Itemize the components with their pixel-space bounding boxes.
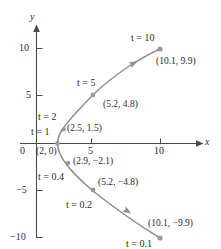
parametric-curve-figure xyxy=(0,0,221,249)
y-tick-label-neg10: −10 xyxy=(10,232,26,242)
data-point-t5 xyxy=(91,93,96,98)
t-label-t10: t = 10 xyxy=(131,33,154,43)
t-label-t01: t = 0.1 xyxy=(126,239,152,249)
data-point-t04 xyxy=(66,161,70,165)
y-tick-label-5: 5 xyxy=(26,90,31,100)
x-axis-arrowhead xyxy=(196,140,204,147)
coord-label-t5: (5.2, 4.8) xyxy=(103,100,138,110)
y-axis-arrowhead xyxy=(33,25,40,33)
data-point-t02 xyxy=(91,188,96,193)
t-label-t2: t = 2 xyxy=(38,112,56,122)
data-point-t2 xyxy=(61,127,65,131)
coord-label-t01: (10.1, −9.9) xyxy=(148,219,193,229)
coord-label-t2: (2.5, 1.5) xyxy=(67,124,102,134)
t-label-t04: t = 0.4 xyxy=(38,172,64,182)
t-label-t1: t = 1 xyxy=(31,127,49,137)
coord-label-t1: (2, 0) xyxy=(36,147,57,157)
x-tick-label-5: 5 xyxy=(88,146,93,156)
coord-label-t10: (10.1, 9.9) xyxy=(156,57,196,67)
y-axis-label: y xyxy=(30,12,34,22)
coord-label-t04: (2.9, −2.1) xyxy=(73,157,113,167)
y-tick-label-10: 10 xyxy=(19,43,29,53)
data-point-t01 xyxy=(157,235,162,240)
data-point-t10 xyxy=(157,46,162,51)
coord-label-t02: (5.2, −4.8) xyxy=(98,178,138,188)
t-label-t02: t = 0.2 xyxy=(66,200,92,210)
x-axis-label: x xyxy=(205,137,209,147)
y-tick-label-neg5: −5 xyxy=(16,185,27,195)
x-tick-label-10: 10 xyxy=(154,146,164,156)
origin-label: 0 xyxy=(20,146,25,156)
t-label-t5: t = 5 xyxy=(77,78,95,88)
